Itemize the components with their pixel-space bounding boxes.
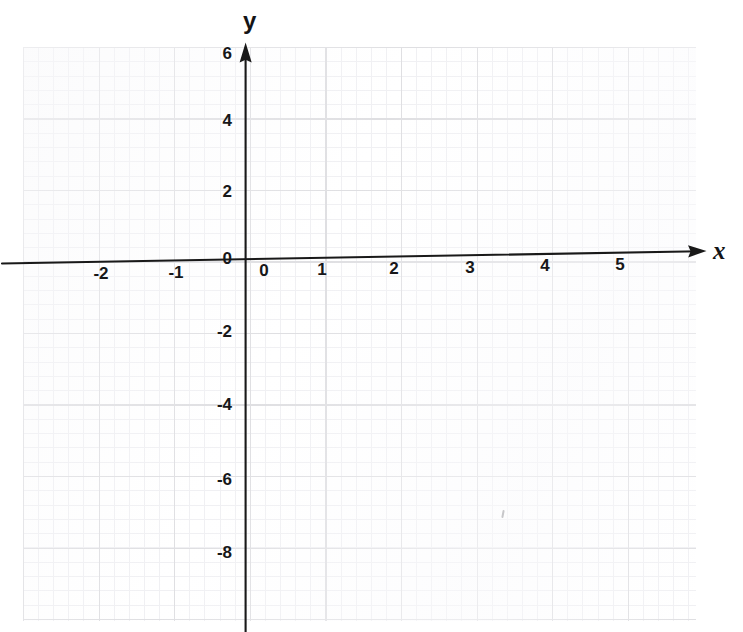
y-axis-arrowhead	[240, 43, 252, 63]
y-axis	[240, 43, 252, 632]
x-axis	[2, 245, 707, 263]
x-tick-label: -2	[93, 265, 108, 282]
x-tick-label: 5	[615, 256, 624, 273]
axes-layer	[0, 0, 743, 632]
x-tick-label: 3	[465, 259, 474, 276]
x-tick-label: 2	[389, 260, 398, 277]
y-tick-label: 0	[196, 250, 232, 267]
x-tick-label: -1	[168, 264, 183, 281]
y-axis-label: y	[243, 9, 256, 33]
x-axis-label: x	[713, 238, 726, 263]
y-tick-label: 6	[196, 45, 232, 62]
graph-canvas: y x -2-1012345 6420-2-4-6-8	[0, 0, 743, 632]
x-tick-label: 0	[259, 262, 268, 279]
x-tick-label: 4	[540, 257, 549, 274]
y-tick-label: 2	[196, 183, 232, 200]
y-tick-label: -6	[196, 471, 232, 488]
y-tick-label: -8	[196, 544, 232, 561]
y-tick-label: -2	[196, 323, 232, 340]
x-axis-arrowhead	[688, 245, 707, 257]
y-tick-label: 4	[196, 112, 232, 129]
y-tick-label: -4	[196, 396, 232, 413]
x-tick-label: 1	[317, 261, 326, 278]
